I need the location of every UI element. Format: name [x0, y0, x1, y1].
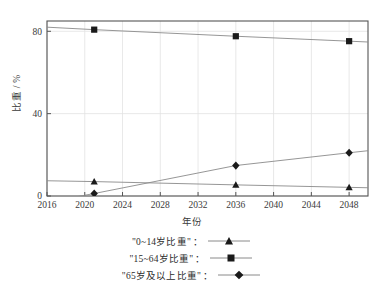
x-axis-title: 年份	[0, 214, 384, 228]
svg-text:2028: 2028	[151, 200, 170, 210]
legend-marker-square-icon	[208, 252, 254, 264]
svg-text:2032: 2032	[189, 200, 208, 210]
svg-text:2040: 2040	[264, 200, 283, 210]
chart-figure: 04080 2016202020242028203220362040204420…	[0, 0, 384, 295]
gridlines	[47, 21, 368, 196]
legend-label: "0~14岁比重"	[132, 234, 191, 248]
legend-marker-triangle-icon	[206, 235, 252, 247]
chart-svg: 04080 2016202020242028203220362040204420…	[0, 0, 384, 215]
legend-label: "15~64岁比重"	[130, 251, 194, 265]
y-axis-title: 比重 / %	[9, 63, 23, 123]
svg-text:40: 40	[33, 109, 43, 119]
svg-text:2044: 2044	[302, 200, 321, 210]
svg-text:2024: 2024	[113, 200, 132, 210]
legend-item: "65岁及以上比重" ：	[0, 266, 384, 283]
svg-text:2020: 2020	[75, 200, 94, 210]
data-series-layer	[47, 27, 368, 203]
plot-frame	[47, 21, 368, 196]
legend-item: "15~64岁比重" ：	[0, 249, 384, 266]
chart-legend: "0~14岁比重" ： "15~64岁比重" ： "65岁及以上比重" ：	[0, 232, 384, 283]
legend-separator: ：	[191, 234, 206, 248]
plot-area: 04080 2016202020242028203220362040204420…	[0, 0, 384, 215]
y-axis-ticks: 04080	[33, 27, 52, 202]
svg-text:80: 80	[33, 27, 43, 37]
legend-item: "0~14岁比重" ：	[0, 232, 384, 249]
legend-separator: ：	[201, 268, 216, 282]
legend-marker-diamond-icon	[216, 269, 262, 281]
legend-label: "65岁及以上比重"	[122, 268, 201, 282]
svg-text:2016: 2016	[38, 200, 57, 210]
svg-text:2036: 2036	[226, 200, 245, 210]
svg-text:2048: 2048	[340, 200, 359, 210]
legend-separator: ：	[193, 251, 208, 265]
